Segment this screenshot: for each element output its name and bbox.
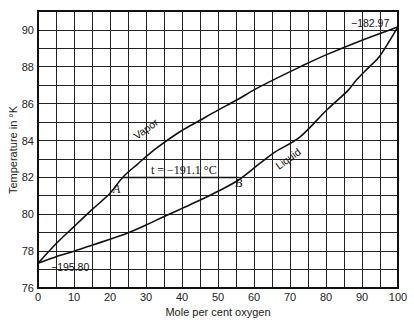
o2-boiling-point-label: −182.97 bbox=[351, 17, 389, 29]
x-tick-label: 40 bbox=[176, 291, 188, 303]
tie-line-label: t = −191.1 °C bbox=[151, 163, 217, 177]
x-tick-label: 30 bbox=[140, 291, 152, 303]
x-axis-ticks: 0102030405060708090100 bbox=[35, 291, 407, 303]
y-tick-label: 90 bbox=[22, 24, 34, 36]
y-tick-label: 86 bbox=[22, 98, 34, 110]
grid-lines bbox=[38, 11, 398, 288]
x-tick-label: 20 bbox=[104, 291, 116, 303]
y-tick-label: 76 bbox=[22, 282, 34, 294]
y-tick-label: 78 bbox=[22, 245, 34, 257]
x-tick-label: 100 bbox=[389, 291, 407, 303]
y-tick-label: 88 bbox=[22, 61, 34, 73]
x-tick-label: 70 bbox=[284, 291, 296, 303]
liquid-label: Liquid bbox=[273, 145, 303, 171]
x-tick-label: 90 bbox=[356, 291, 368, 303]
x-tick-label: 0 bbox=[35, 291, 41, 303]
x-axis-label: Mole per cent oxygen bbox=[165, 306, 270, 318]
x-tick-label: 60 bbox=[248, 291, 260, 303]
n2-boiling-point-label: −195.80 bbox=[51, 261, 89, 273]
y-tick-label: 82 bbox=[22, 171, 34, 183]
point-a-label: A bbox=[112, 182, 121, 196]
phase-diagram-chart: 0102030405060708090100 7678808284868890 … bbox=[0, 0, 414, 323]
y-axis-label: Temperature in °K bbox=[7, 105, 19, 194]
point-b-label: B bbox=[235, 176, 243, 190]
x-tick-label: 80 bbox=[320, 291, 332, 303]
y-axis-ticks: 7678808284868890 bbox=[22, 24, 34, 294]
y-tick-label: 84 bbox=[22, 135, 34, 147]
x-tick-label: 50 bbox=[212, 291, 224, 303]
x-tick-label: 10 bbox=[68, 291, 80, 303]
y-tick-label: 80 bbox=[22, 208, 34, 220]
